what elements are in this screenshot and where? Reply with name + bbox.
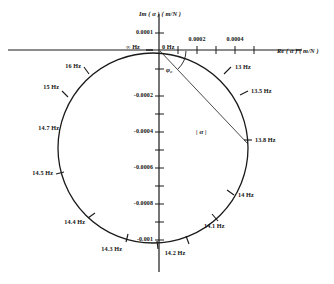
x-tick-label-0.0004: 0.0004 xyxy=(226,36,243,43)
y-axis-label: Im ( α ) ( m/N ) xyxy=(139,10,181,17)
y-tick-label-0.0001: 0.0001 xyxy=(136,29,153,36)
magnitude-label: | α | xyxy=(196,128,207,135)
x-axis-label: Re ( α ) ( m/N ) xyxy=(277,47,319,54)
x-tick-label-0.0002: 0.0002 xyxy=(188,36,205,43)
freq-label-14.7hz: 14.7 Hz xyxy=(38,124,59,131)
y-tick-label--0.0006: -0.0006 xyxy=(134,164,153,171)
freq-label-14.4hz: 14.4 Hz xyxy=(64,218,85,225)
freq-label-15hz: 15 Hz xyxy=(43,83,59,90)
zero-hz-label: 0 Hz xyxy=(162,43,175,50)
freq-label-13hz: 13 Hz xyxy=(235,63,251,70)
freq-label-14hz: 14 Hz xyxy=(238,191,254,198)
y-tick-label--0.001: -0.001 xyxy=(137,236,153,243)
infinity-hz-label: ∞ Hz xyxy=(126,43,140,50)
freq-label-14.3hz: 14.3 Hz xyxy=(101,245,122,252)
y-tick-label--0.0008: -0.0008 xyxy=(134,200,153,207)
freq-label-14.2hz: 14.2 Hz xyxy=(165,249,186,256)
freq-label-13.8hz: 13.8 Hz xyxy=(255,136,276,143)
freq-label-16hz: 16 Hz xyxy=(65,62,81,69)
freq-label-14.1hz: 14.1 Hz xyxy=(204,222,225,229)
freq-label-13.5hz: 13.5 Hz xyxy=(251,87,272,94)
phase-angle-label: φ₀ xyxy=(166,66,173,73)
phase-angle-arc xyxy=(178,51,186,69)
y-tick-label--0.0002: -0.0002 xyxy=(134,92,153,99)
nyquist-circle-curve xyxy=(58,53,248,243)
y-tick-label--0.0004: -0.0004 xyxy=(134,128,153,135)
freq-label-14.5hz: 14.5 Hz xyxy=(32,169,53,176)
